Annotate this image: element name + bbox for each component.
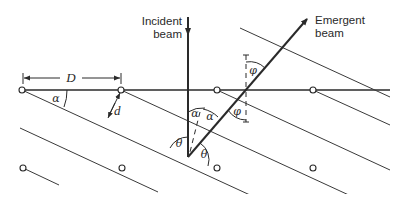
diffraction-diagram: Incident beam Emergent beam D d α α α θ … — [0, 0, 405, 197]
emergent-beam-label-line1: Emergent — [315, 14, 366, 26]
lattice-plane — [22, 90, 250, 195]
lattice-point — [118, 87, 124, 93]
lattice-plane — [217, 90, 390, 170]
angle-alpha-left-label: α — [52, 92, 60, 105]
emergent-beam — [188, 19, 307, 157]
angle-alpha-incident-label: α — [191, 107, 199, 120]
lattice-point — [19, 87, 25, 93]
alpha-arc-left — [64, 90, 67, 107]
incident-beam-label-line1: Incident — [142, 15, 183, 27]
angle-phi-upper-label: φ — [249, 64, 257, 77]
incident-beam-label-line2: beam — [153, 28, 182, 40]
angle-theta-right-label: θ — [201, 148, 208, 161]
lattice-point — [310, 87, 316, 93]
lattice-point — [310, 165, 316, 171]
lattice-point — [20, 165, 26, 171]
incident-arrow-icon — [185, 28, 191, 36]
lattice-point — [119, 165, 125, 171]
spacing-d-label: d — [114, 103, 121, 118]
emergent-beam-label-line2: beam — [315, 27, 344, 39]
spacing-D-label: D — [65, 70, 76, 85]
lattice-plane — [313, 90, 390, 125]
lattice-point — [214, 87, 220, 93]
lattice-plane — [121, 90, 390, 197]
lattice-points — [19, 87, 316, 171]
lattice-plane — [23, 168, 59, 185]
lattice-planes — [20, 28, 390, 197]
lattice-plane — [20, 128, 158, 192]
lattice-point — [214, 165, 220, 171]
angle-phi-lower-label: φ — [233, 105, 241, 118]
angle-theta-left-label: θ — [176, 137, 183, 150]
angle-alpha-emergent-label: α — [206, 110, 214, 123]
